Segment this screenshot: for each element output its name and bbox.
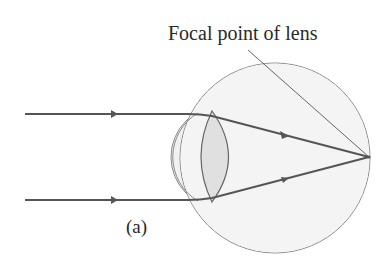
arrow-icon (111, 110, 118, 118)
eye-focus-diagram: Focal point of lens (a) (0, 0, 390, 274)
focal-point (368, 156, 371, 159)
arrow-icon (111, 196, 118, 204)
part-label: (a) (126, 216, 147, 238)
focal-point-label: Focal point of lens (168, 22, 317, 45)
